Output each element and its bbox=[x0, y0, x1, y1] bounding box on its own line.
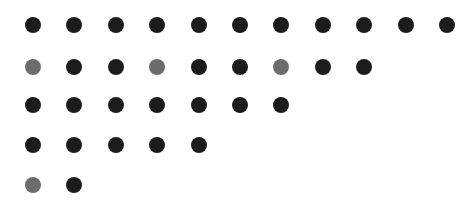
gray-dot bbox=[273, 59, 289, 75]
dark-dot bbox=[66, 59, 82, 75]
dark-dot bbox=[273, 97, 289, 113]
dark-dot bbox=[191, 17, 207, 33]
dark-dot bbox=[25, 97, 41, 113]
gray-dot bbox=[149, 59, 165, 75]
dark-dot bbox=[149, 97, 165, 113]
dark-dot bbox=[439, 17, 455, 33]
dark-dot bbox=[191, 97, 207, 113]
dark-dot bbox=[232, 17, 248, 33]
dark-dot bbox=[191, 59, 207, 75]
dark-dot bbox=[108, 59, 124, 75]
dark-dot bbox=[66, 17, 82, 33]
dark-dot bbox=[108, 17, 124, 33]
dark-dot bbox=[66, 97, 82, 113]
dark-dot bbox=[315, 59, 331, 75]
dark-dot bbox=[273, 17, 289, 33]
dark-dot bbox=[149, 137, 165, 153]
dark-dot bbox=[191, 137, 207, 153]
dark-dot bbox=[356, 59, 372, 75]
dark-dot bbox=[25, 137, 41, 153]
gray-dot bbox=[25, 177, 41, 193]
dark-dot bbox=[108, 137, 124, 153]
dark-dot bbox=[108, 97, 124, 113]
dark-dot bbox=[66, 177, 82, 193]
gray-dot bbox=[25, 59, 41, 75]
dark-dot bbox=[315, 17, 331, 33]
dark-dot bbox=[232, 97, 248, 113]
dark-dot bbox=[398, 17, 414, 33]
dark-dot bbox=[356, 17, 372, 33]
dark-dot bbox=[66, 137, 82, 153]
dark-dot bbox=[149, 17, 165, 33]
dark-dot bbox=[25, 17, 41, 33]
dark-dot bbox=[232, 59, 248, 75]
